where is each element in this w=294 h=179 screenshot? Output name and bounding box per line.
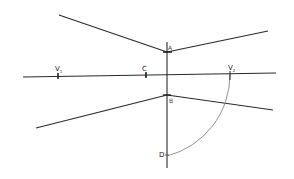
construction-arc — [167, 74, 230, 156]
label-v1: V1 — [55, 65, 63, 74]
label-d: D — [159, 151, 164, 159]
label-b: B — [169, 97, 173, 104]
perspective-diagram: V1 C V2 A B D — [0, 0, 294, 179]
lower-right-line — [167, 95, 273, 110]
label-v2: V2 — [228, 64, 236, 73]
upper-right-line — [167, 31, 268, 52]
upper-left-line — [59, 15, 167, 52]
label-a: A — [168, 44, 173, 51]
lower-left-line — [36, 95, 167, 128]
horizon-line — [23, 73, 276, 77]
label-c: C — [142, 65, 147, 73]
